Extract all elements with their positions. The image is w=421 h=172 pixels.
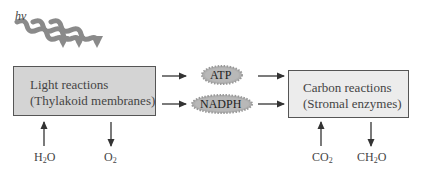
nadph-label: NADPH bbox=[200, 97, 241, 112]
h2o-label: H2O bbox=[34, 150, 55, 165]
atp-label: ATP bbox=[210, 68, 231, 83]
light-wave-arrows-icon bbox=[17, 21, 97, 42]
carbon-reactions-box: Carbon reactions (Stromal enzymes) bbox=[288, 70, 409, 118]
light-energy-label: hν bbox=[15, 9, 26, 24]
light-reactions-box: Light reactions (Thylakoid membranes) bbox=[13, 66, 156, 116]
light-reactions-title: Light reactions bbox=[30, 77, 155, 93]
o2-label: O2 bbox=[104, 150, 117, 165]
light-reactions-location: (Thylakoid membranes) bbox=[30, 93, 155, 109]
ch2o-label: CH2O bbox=[357, 150, 386, 165]
photosynthesis-diagram: hν Light reactions (Thylakoid membranes)… bbox=[0, 0, 421, 172]
carbon-reactions-title: Carbon reactions bbox=[303, 80, 402, 96]
co2-label: CO2 bbox=[312, 150, 333, 165]
carbon-reactions-location: (Stromal enzymes) bbox=[303, 96, 402, 112]
